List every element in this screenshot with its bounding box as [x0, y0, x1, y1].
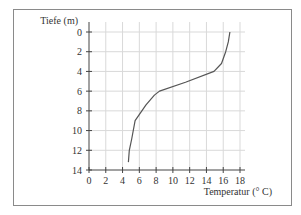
y-tick-label: 8: [77, 105, 82, 116]
x-tick-label: 18: [235, 175, 245, 186]
y-axis-title: Tiefe (m): [40, 15, 78, 27]
y-tick-label: 6: [77, 86, 82, 97]
x-axis-title: Temperatur (° C): [204, 186, 272, 198]
depth-temperature-chart: 024681012141618 02468101214 Tiefe (m) Te…: [0, 0, 301, 215]
x-tick-label: 10: [168, 175, 178, 186]
x-tick-label: 0: [87, 175, 92, 186]
axes: [89, 22, 245, 170]
y-tick-label: 2: [77, 46, 82, 57]
y-tick-label: 0: [77, 27, 82, 38]
x-tick-label: 12: [185, 175, 195, 186]
y-tick-label: 12: [72, 145, 82, 156]
grid: [89, 22, 245, 170]
x-tick-label: 2: [103, 175, 108, 186]
x-tick-label: 16: [218, 175, 228, 186]
x-tick-label: 4: [120, 175, 125, 186]
y-tick-label: 4: [77, 66, 82, 77]
y-tick-label: 10: [72, 125, 82, 136]
x-tick-label: 8: [154, 175, 159, 186]
x-tick-label: 14: [201, 175, 211, 186]
y-tick-label: 14: [72, 165, 82, 176]
x-tick-label: 6: [137, 175, 142, 186]
